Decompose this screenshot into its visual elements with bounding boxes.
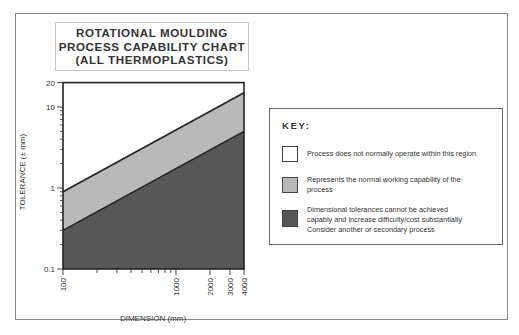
y-tick-label: 10 (46, 103, 55, 112)
legend-title: KEY: (282, 120, 310, 131)
legend-box: KEY: Process does not normally operate w… (269, 108, 503, 245)
plot-regions (63, 83, 244, 269)
legend-text-line: Dimensional tolerances cannot be achieve… (307, 205, 497, 215)
legend-item-normal-capability: Represents the normal working capability… (282, 177, 497, 195)
legend-text: Represents the normal working capability… (307, 175, 497, 195)
legend-text-line: Represents the normal working capability… (307, 175, 497, 185)
x-tick-label: 3000 (226, 277, 235, 295)
legend-text-line: Process does not normally operate within… (307, 149, 497, 159)
x-tick-label: 2000 (206, 277, 215, 295)
light-grey-swatch-icon (282, 177, 298, 193)
y-tick-label: 0.1 (44, 265, 56, 274)
legend-text: Dimensional tolerances cannot be achieve… (307, 205, 497, 234)
x-tick-label: 4000 (240, 277, 249, 295)
y-axis-title: TOLERANCE (± mm) (18, 134, 27, 211)
x-tick-label: 100 (59, 277, 68, 291)
x-axis-title: DIMENSION (mm) (120, 314, 187, 323)
y-tick-label: 20 (46, 79, 55, 88)
legend-text: Process does not normally operate within… (307, 146, 497, 159)
legend-item-not-operating: Process does not normally operate within… (282, 146, 497, 162)
x-tick-label: 1000 (172, 277, 181, 295)
legend-item-not-achievable: Dimensional tolerances cannot be achieve… (282, 210, 497, 234)
legend-text-line: capably and increase difficulty/cost sub… (307, 215, 497, 225)
legend-text-line: Consider another or secondary process (307, 225, 497, 235)
y-tick-label: 1 (51, 184, 56, 193)
white-swatch-icon (282, 146, 298, 162)
dark-grey-swatch-icon (282, 210, 298, 227)
legend-text-line: process (307, 185, 497, 195)
